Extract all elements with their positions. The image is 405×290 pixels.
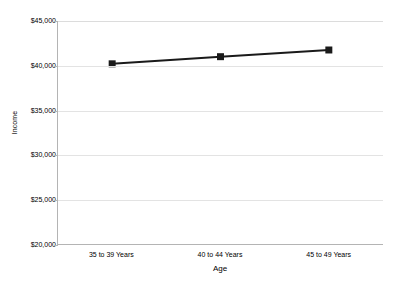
x-axis-tick-labels: 35 to 39 Years40 to 44 Years45 to 49 Yea…: [57, 250, 383, 262]
y-axis-tick-labels: $45,000$40,000$35,000$30,000$25,000$20,0…: [12, 21, 56, 245]
y-axis-tick-mark: [54, 66, 58, 67]
data-point-marker: [217, 53, 224, 60]
y-axis-tick-label: $30,000: [12, 151, 56, 159]
y-axis-tick-label: $25,000: [12, 196, 56, 204]
plot-area: [57, 21, 383, 245]
x-axis-tick-label: 45 to 49 Years: [306, 250, 351, 260]
y-axis-tick-label: $35,000: [12, 107, 56, 115]
gridline: [58, 21, 383, 22]
y-axis-tick-mark: [54, 200, 58, 201]
y-axis-tick-mark: [54, 111, 58, 112]
gridline: [58, 155, 383, 156]
chart-container: Income $45,000$40,000$35,000$30,000$25,0…: [0, 0, 405, 290]
data-series-svg: [58, 21, 383, 244]
gridline: [58, 111, 383, 112]
x-axis-title-label: Age: [213, 264, 227, 273]
x-axis-title: Age: [57, 264, 383, 273]
x-axis-tick-label: 40 to 44 Years: [198, 250, 243, 260]
y-axis-tick-label: $45,000: [12, 17, 56, 25]
gridline: [58, 66, 383, 67]
x-axis-tick-label: 35 to 39 Years: [89, 250, 134, 260]
gridline: [58, 200, 383, 201]
y-axis-tick-mark: [54, 155, 58, 156]
y-axis-tick-mark: [54, 21, 58, 22]
y-axis-tick-label: $20,000: [12, 241, 56, 249]
data-point-marker: [325, 47, 332, 54]
y-axis-tick-mark: [54, 245, 58, 246]
y-axis-tick-label: $40,000: [12, 62, 56, 70]
